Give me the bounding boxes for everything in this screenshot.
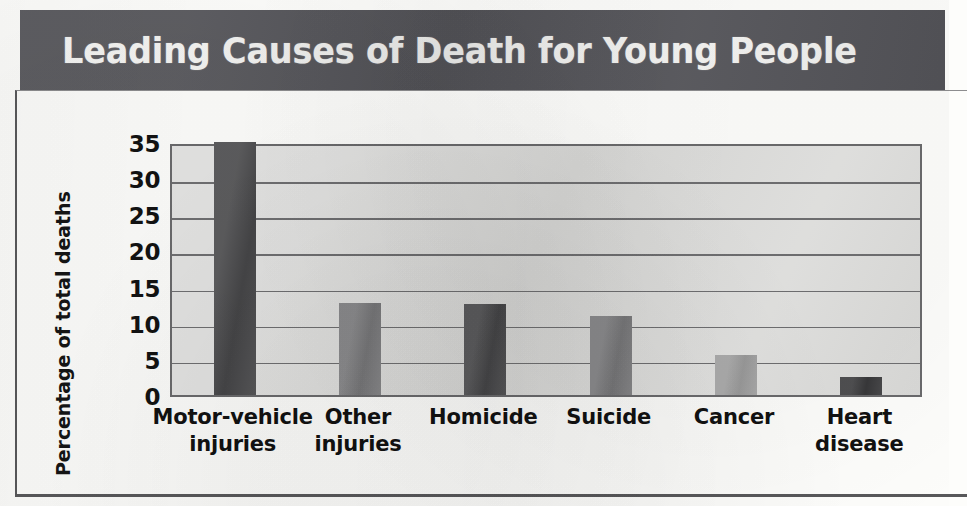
bar-cancer xyxy=(715,355,757,395)
y-axis-tick-5: 5 xyxy=(144,349,160,372)
title-banner: Leading Causes of Death for Young People xyxy=(20,10,945,90)
y-axis-tick-15: 15 xyxy=(129,277,160,300)
y-axis-tick-25: 25 xyxy=(129,205,160,228)
y-axis-tick-30: 30 xyxy=(129,169,160,192)
plot-area xyxy=(170,144,922,397)
y-axis-tick-10: 10 xyxy=(129,313,160,336)
bar-homicide xyxy=(464,304,506,395)
y-axis-title: Percentage of total deaths xyxy=(52,226,74,476)
bar-other-injuries xyxy=(339,303,381,395)
y-axis-tick-labels: 05101520253035 xyxy=(96,144,160,397)
chart-figure: Percentage of total deaths 0510152025303… xyxy=(0,90,949,506)
x-axis-category-labels: Motor-vehicleinjuriesOtherinjuriesHomici… xyxy=(170,404,922,484)
x-axis-label-heart-disease: Heartdisease xyxy=(779,404,940,458)
y-axis-tick-20: 20 xyxy=(129,241,160,264)
bar-series xyxy=(172,146,920,395)
bar-suicide xyxy=(590,316,632,396)
bar-heart-disease xyxy=(840,377,882,395)
y-axis-tick-35: 35 xyxy=(129,133,160,156)
page-title: Leading Causes of Death for Young People xyxy=(62,30,857,71)
bar-motor-vehicle-injuries xyxy=(214,142,256,395)
